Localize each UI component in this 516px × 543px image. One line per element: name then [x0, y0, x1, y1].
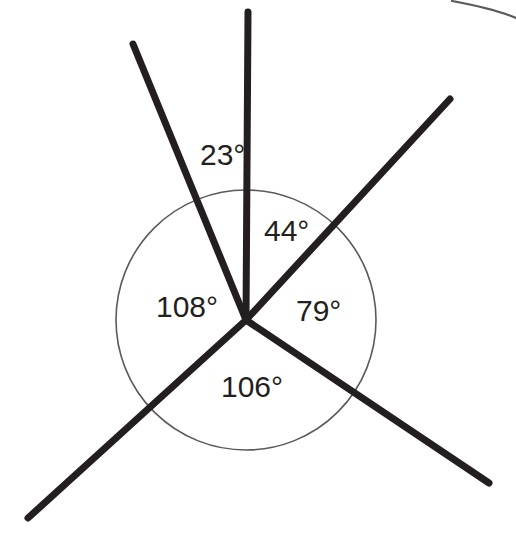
angle-diagram-canvas: 23° 44° 108° 79° 106° [0, 0, 516, 543]
angle-label-79: 79° [296, 296, 341, 326]
diagram-svg [0, 0, 516, 543]
angle-label-23: 23° [200, 140, 245, 170]
angle-label-106: 106° [221, 372, 283, 402]
ray-upper-left [133, 44, 246, 320]
corner-arc-top-right [452, 1, 516, 18]
angle-label-108: 108° [156, 292, 218, 322]
ray-lower-left [28, 320, 246, 518]
ray-vertical-up [246, 12, 248, 320]
ray-upper-right [246, 99, 450, 320]
angle-label-44: 44° [264, 216, 309, 246]
